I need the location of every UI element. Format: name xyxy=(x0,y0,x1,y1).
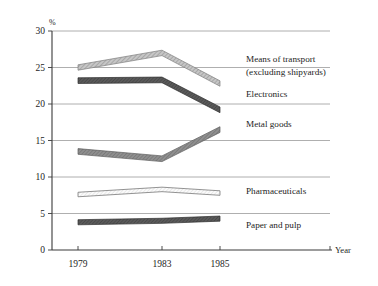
x-axis-line xyxy=(52,246,332,250)
y-tick-label-30: 30 xyxy=(36,26,46,36)
series-band-pharmaceuticals xyxy=(78,187,220,197)
y-tick-label-15: 15 xyxy=(36,136,46,146)
y-tick-label-20: 20 xyxy=(36,99,46,109)
series-label-means-of-transport: Means of transport xyxy=(246,54,316,64)
line-chart-figure: 051015202530 197919831985 Means of trans… xyxy=(0,0,378,286)
series-label-metal-goods: Metal goods xyxy=(246,119,292,129)
x-tick-label-1983: 1983 xyxy=(153,259,172,269)
y-tick-labels: 051015202530 xyxy=(36,26,53,255)
y-tick-label-10: 10 xyxy=(36,172,46,182)
series-label-pharmaceuticals: Pharmaceuticals xyxy=(246,186,307,196)
x-tick-label-1979: 1979 xyxy=(69,259,88,269)
series-band-paper-and-pulp xyxy=(78,216,220,225)
series-inline-labels: Means of transport(excluding shipyards)E… xyxy=(246,54,326,230)
x-tick-labels: 197919831985 xyxy=(69,259,230,269)
y-tick-label-5: 5 xyxy=(40,209,45,219)
y-tick-label-0: 0 xyxy=(40,245,45,255)
series-label-electronics: Electronics xyxy=(246,89,288,99)
series-label-paper-and-pulp: Paper and pulp xyxy=(246,220,302,230)
chart-canvas: 051015202530 197919831985 Means of trans… xyxy=(0,0,378,286)
series-bands xyxy=(78,50,220,225)
y-tick-label-25: 25 xyxy=(36,63,46,73)
series-band-electronics xyxy=(78,77,220,113)
series-label-means-of-transport-sub: (excluding shipyards) xyxy=(246,67,326,77)
y-axis-unit-label: % xyxy=(49,18,56,27)
x-tick-label-1985: 1985 xyxy=(211,259,230,269)
x-axis-label: Year xyxy=(335,245,351,255)
series-band-metal-goods xyxy=(78,127,220,162)
